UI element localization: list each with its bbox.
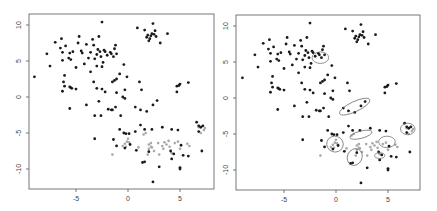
data-point-black bbox=[152, 22, 155, 25]
data-point-black bbox=[95, 87, 98, 90]
data-point-black bbox=[111, 109, 114, 112]
cluster-ellipse bbox=[344, 146, 364, 168]
data-point-black bbox=[293, 105, 296, 108]
data-point-black bbox=[62, 80, 65, 83]
data-point-gray bbox=[204, 127, 207, 130]
data-point-black bbox=[322, 107, 325, 110]
data-point-black bbox=[100, 114, 103, 117]
data-point-black bbox=[305, 101, 308, 104]
data-point-black bbox=[200, 150, 203, 153]
data-point-black bbox=[69, 58, 72, 61]
data-point-black bbox=[395, 156, 398, 159]
data-point-black bbox=[278, 88, 281, 91]
data-point-black bbox=[297, 52, 300, 55]
data-point-black bbox=[276, 108, 279, 111]
data-point-gray bbox=[179, 148, 182, 151]
data-point-gray bbox=[127, 137, 130, 140]
data-point-black bbox=[307, 51, 310, 54]
data-point-gray bbox=[163, 141, 166, 144]
data-point-black bbox=[146, 34, 149, 37]
data-point-black bbox=[360, 23, 363, 26]
data-point-black bbox=[374, 33, 377, 36]
data-point-black bbox=[71, 50, 74, 53]
data-point-black bbox=[322, 45, 325, 48]
data-point-gray bbox=[137, 146, 140, 149]
data-point-black bbox=[269, 60, 272, 63]
data-point-black bbox=[169, 150, 172, 153]
data-point-black bbox=[166, 32, 169, 35]
data-point-black bbox=[111, 80, 114, 83]
data-point-black bbox=[143, 128, 146, 131]
data-point-black bbox=[309, 22, 312, 25]
data-point-black bbox=[93, 114, 96, 117]
data-point-black bbox=[123, 88, 126, 91]
data-point-black bbox=[75, 66, 78, 69]
data-point-black bbox=[106, 54, 109, 57]
data-point-black bbox=[100, 55, 103, 58]
data-point-black bbox=[179, 83, 182, 86]
data-point-black bbox=[123, 97, 126, 100]
data-point-black bbox=[152, 104, 155, 107]
data-point-black bbox=[378, 159, 381, 162]
data-point-black bbox=[179, 168, 182, 171]
data-point-black bbox=[63, 74, 66, 77]
data-point-black bbox=[309, 89, 312, 92]
data-point-black bbox=[99, 50, 102, 53]
data-point-gray bbox=[111, 153, 114, 156]
data-point-black bbox=[262, 42, 265, 45]
plot-frame bbox=[29, 14, 214, 189]
data-point-black bbox=[158, 165, 161, 168]
data-point-gray bbox=[167, 140, 170, 143]
data-point-gray bbox=[122, 145, 125, 148]
data-point-black bbox=[61, 59, 64, 62]
data-point-black bbox=[54, 41, 57, 44]
data-point-black bbox=[342, 131, 345, 134]
data-point-gray bbox=[376, 146, 379, 149]
data-point-black bbox=[380, 153, 383, 156]
data-point-black bbox=[170, 128, 173, 131]
data-point-black bbox=[331, 148, 334, 151]
data-point-black bbox=[323, 146, 326, 149]
data-point-black bbox=[97, 35, 100, 38]
data-point-gray bbox=[168, 145, 171, 148]
x-tick-label: 5 bbox=[178, 195, 182, 202]
data-point-black bbox=[346, 81, 349, 84]
data-point-black bbox=[390, 155, 393, 158]
data-point-gray bbox=[382, 143, 385, 146]
data-point-black bbox=[361, 34, 364, 37]
data-point-black bbox=[139, 109, 142, 112]
data-point-black bbox=[70, 87, 73, 90]
data-point-black bbox=[113, 47, 116, 50]
data-point-black bbox=[83, 62, 86, 65]
scatter-panel-right: -505-10-50510 bbox=[222, 15, 420, 203]
data-point-black bbox=[387, 84, 390, 87]
data-point-black bbox=[197, 130, 200, 133]
data-point-black bbox=[102, 61, 105, 64]
data-point-gray bbox=[354, 154, 357, 157]
data-point-black bbox=[308, 56, 311, 59]
data-point-black bbox=[64, 44, 67, 47]
data-point-black bbox=[293, 44, 296, 47]
data-point-black bbox=[115, 78, 118, 81]
data-point-black bbox=[77, 42, 80, 45]
data-point-gray bbox=[146, 153, 149, 156]
data-point-gray bbox=[177, 140, 180, 143]
data-point-black bbox=[145, 110, 148, 113]
data-point-gray bbox=[319, 154, 322, 157]
y-tick-label: -5 bbox=[222, 131, 229, 137]
data-point-black bbox=[283, 89, 286, 92]
data-point-black bbox=[318, 53, 321, 56]
data-point-black bbox=[304, 49, 307, 52]
data-point-black bbox=[68, 52, 71, 55]
data-point-black bbox=[170, 158, 173, 161]
data-point-gray bbox=[335, 138, 338, 141]
data-point-black bbox=[75, 88, 78, 91]
data-point-black bbox=[104, 50, 107, 53]
data-point-black bbox=[271, 75, 274, 78]
data-point-black bbox=[187, 155, 190, 158]
data-point-black bbox=[87, 57, 90, 60]
data-point-black bbox=[89, 70, 92, 73]
data-point-black bbox=[101, 65, 104, 68]
scatter-figure: -505-10-50510 -505-10-50510 bbox=[0, 0, 437, 211]
data-point-black bbox=[68, 107, 71, 110]
